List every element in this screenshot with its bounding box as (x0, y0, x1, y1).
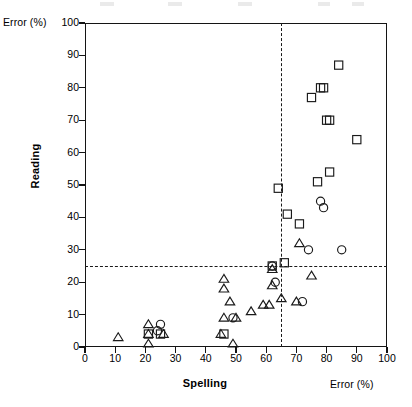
x-tick-mark (175, 347, 176, 353)
x-tick-label: 30 (161, 352, 191, 364)
y-tick-mark (79, 217, 85, 218)
reference-line-vertical (281, 23, 282, 347)
reference-line-horizontal (85, 266, 387, 267)
x-tick-label: 60 (251, 352, 281, 364)
x-tick-label: 70 (281, 352, 311, 364)
y-tick-mark (79, 55, 85, 56)
y-tick-mark (79, 87, 85, 88)
x-tick-label: 10 (100, 352, 130, 364)
x-tick-label: 20 (130, 352, 160, 364)
x-tick-mark (326, 347, 327, 353)
x-tick-mark (296, 347, 297, 353)
x-tick-mark (356, 347, 357, 353)
x-tick-mark (205, 347, 206, 353)
x-tick-label: 0 (70, 352, 100, 364)
y-tick-mark (79, 184, 85, 185)
y-tick-mark (79, 120, 85, 121)
x-tick-mark (386, 347, 387, 353)
y-tick-mark (79, 249, 85, 250)
x-tick-mark (266, 347, 267, 353)
x-tick-mark (235, 347, 236, 353)
y-tick-mark (79, 22, 85, 23)
x-tick-mark (145, 347, 146, 353)
scatter-chart-figure: Error (%) Error (%) Reading Spelling 010… (0, 0, 412, 407)
x-axis-tick-labels: 0102030405060708090100 (0, 0, 412, 407)
x-tick-label: 40 (191, 352, 221, 364)
y-tick-mark (79, 282, 85, 283)
y-tick-mark (79, 314, 85, 315)
x-tick-label: 90 (342, 352, 372, 364)
y-tick-mark (79, 152, 85, 153)
x-tick-label: 100 (372, 352, 402, 364)
x-tick-mark (115, 347, 116, 353)
x-tick-mark (84, 347, 85, 353)
x-tick-label: 50 (221, 352, 251, 364)
x-tick-label: 80 (312, 352, 342, 364)
